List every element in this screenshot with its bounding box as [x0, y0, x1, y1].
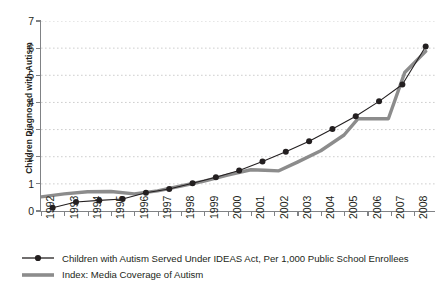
y-tick-label: 1 — [14, 179, 34, 190]
x-tick-label: 1994 — [92, 196, 103, 219]
x-tick-label: 2006 — [372, 196, 383, 219]
y-tick-label: 6 — [14, 43, 34, 54]
x-tick-mark — [228, 212, 229, 216]
x-tick-mark — [321, 212, 322, 216]
x-tick-label: 1999 — [209, 196, 220, 219]
autism-line-chart: Children Diagnosed with Autism 01234567 … — [0, 0, 441, 289]
x-tick-label: 1992 — [45, 196, 56, 219]
x-tick-mark — [274, 212, 275, 216]
x-tick-mark — [158, 212, 159, 216]
x-tick-label: 2007 — [395, 196, 406, 219]
plot-area — [41, 21, 435, 211]
x-tick-mark — [391, 212, 392, 216]
x-tick-mark — [134, 212, 135, 216]
x-tick-label: 1995 — [115, 196, 126, 219]
x-tick-label: 2002 — [279, 196, 290, 219]
media-coverage-line — [41, 51, 426, 196]
x-tick-mark — [204, 212, 205, 216]
y-tick-label: 3 — [14, 124, 34, 135]
legend-label-media-coverage: Index: Media Coverage of Autism — [62, 269, 203, 280]
y-tick-label: 2 — [14, 151, 34, 162]
legend-item-autism-served: Children with Autism Served Under IDEAS … — [21, 252, 409, 264]
y-tick-label: 4 — [14, 97, 34, 108]
x-tick-label: 1997 — [162, 196, 173, 219]
x-tick-mark — [344, 212, 345, 216]
legend-swatch-line-marker — [21, 252, 55, 264]
y-tick-label: 7 — [14, 16, 34, 27]
gridlines — [41, 21, 435, 184]
x-tick-mark — [41, 212, 42, 216]
x-tick-label: 2000 — [232, 196, 243, 219]
x-tick-mark — [414, 212, 415, 216]
x-tick-mark — [181, 212, 182, 216]
x-tick-label: 1996 — [139, 196, 150, 219]
y-tick-label: 0 — [14, 206, 34, 217]
x-tick-mark — [297, 212, 298, 216]
legend-item-media-coverage: Index: Media Coverage of Autism — [21, 269, 409, 281]
x-tick-mark — [367, 212, 368, 216]
x-tick-mark — [251, 212, 252, 216]
x-tick-mark — [111, 212, 112, 216]
x-tick-label: 1993 — [69, 196, 80, 219]
y-tick-label: 5 — [14, 70, 34, 81]
plot-svg — [41, 21, 435, 211]
x-tick-mark — [88, 212, 89, 216]
legend-swatch-thick-line — [21, 269, 55, 281]
x-tick-label: 2008 — [418, 196, 429, 219]
legend-label-autism-served: Children with Autism Served Under IDEAS … — [62, 253, 409, 264]
x-tick-mark — [64, 212, 65, 216]
x-tick-label: 2005 — [348, 196, 359, 219]
chart-legend: Children with Autism Served Under IDEAS … — [21, 252, 409, 281]
x-tick-label: 1998 — [185, 196, 196, 219]
x-tick-label: 2004 — [325, 196, 336, 219]
x-tick-label: 2003 — [302, 196, 313, 219]
x-tick-label: 2001 — [255, 196, 266, 219]
autism-served-markers — [50, 44, 429, 211]
